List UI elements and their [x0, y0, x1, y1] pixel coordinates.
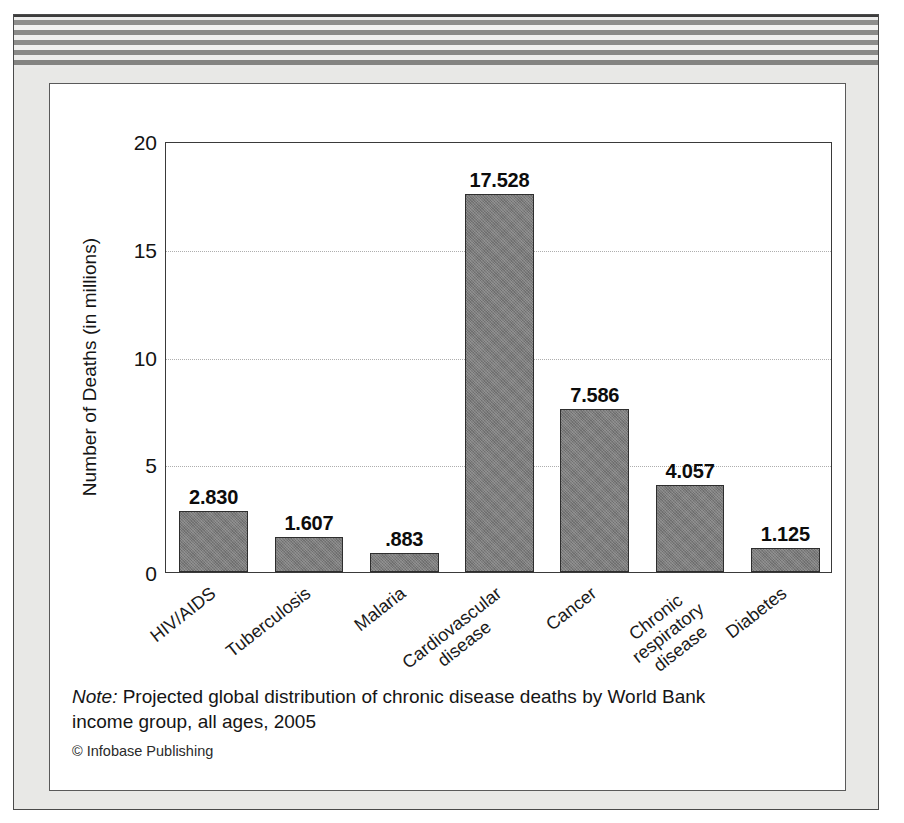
- note-lead-label: Note:: [72, 686, 117, 707]
- bar-value-label: 1.607: [284, 512, 333, 535]
- bar: 2.830: [179, 511, 248, 572]
- category-label-line: HIV/AIDS: [146, 583, 219, 646]
- chart-panel: Number of Deaths (in millions) 05101520 …: [49, 83, 846, 791]
- bar: 1.607: [275, 537, 344, 572]
- category-label: Cancer: [542, 583, 600, 635]
- y-axis-tick-label: 0: [145, 562, 157, 586]
- bar-value-label: 17.528: [469, 169, 529, 192]
- bar-value-label: 4.057: [666, 460, 715, 483]
- bars-layer: 2.8301.607.88317.5287.5864.0571.125: [166, 143, 831, 572]
- category-label: Malaria: [351, 583, 410, 635]
- category-label-line: Tuberculosis: [222, 583, 314, 661]
- bar-value-label: 7.586: [570, 384, 619, 407]
- figure-note: Note: Projected global distribution of c…: [72, 684, 732, 734]
- category-label-line: Cancer: [542, 583, 600, 635]
- figure-page: Number of Deaths (in millions) 05101520 …: [0, 0, 904, 823]
- bar: 4.057: [656, 485, 725, 572]
- y-axis-tick-label: 10: [134, 347, 157, 371]
- bar-value-label: 1.125: [761, 523, 810, 546]
- copyright-credit: © Infobase Publishing: [72, 743, 772, 759]
- y-axis-title: Number of Deaths (in millions): [79, 177, 101, 557]
- category-label: Cardiovasculardisease: [398, 583, 517, 689]
- decorative-stripe-band: [14, 15, 878, 68]
- bar: 17.528: [465, 194, 534, 572]
- bar: .883: [370, 553, 439, 572]
- category-label: Tuberculosis: [222, 583, 314, 661]
- figure-outer-frame: Number of Deaths (in millions) 05101520 …: [13, 14, 879, 810]
- category-label: Diabetes: [722, 583, 790, 643]
- note-body-text: Projected global distribution of chronic…: [72, 686, 705, 732]
- category-label-line: Malaria: [351, 583, 410, 635]
- plot-area: 05101520 2.8301.607.88317.5287.5864.0571…: [165, 142, 832, 573]
- bar-value-label: .883: [385, 528, 423, 551]
- bar: 7.586: [560, 409, 629, 572]
- y-axis-tick-label: 20: [134, 131, 157, 155]
- category-label: Chronicrespiratorydisease: [616, 583, 720, 683]
- category-label: HIV/AIDS: [146, 583, 219, 646]
- category-label-line: Diabetes: [722, 583, 790, 643]
- y-axis-tick-label: 5: [145, 454, 157, 478]
- note-block: Note: Projected global distribution of c…: [72, 684, 772, 759]
- y-axis-tick-label: 15: [134, 239, 157, 263]
- bar-value-label: 2.830: [189, 486, 238, 509]
- bar: 1.125: [751, 548, 820, 572]
